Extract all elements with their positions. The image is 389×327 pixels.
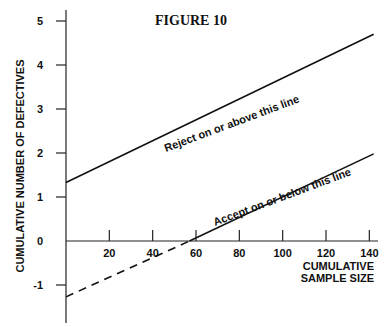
y-tick-label: 4 xyxy=(37,59,44,71)
x-tick-label: 60 xyxy=(190,247,202,259)
chart-figure: FIGURE 10 CUMULATIVE NUMBER OF DEFECTIVE… xyxy=(0,0,389,327)
y-tick-label: -1 xyxy=(33,279,43,291)
series-line xyxy=(66,34,374,182)
chart-title: FIGURE 10 xyxy=(155,13,227,28)
reject-annotation: Reject on or above this line xyxy=(162,93,300,154)
series-line xyxy=(66,241,190,297)
y-ticks: -1012345 xyxy=(33,15,66,291)
x-tick-label: 20 xyxy=(103,247,115,259)
x-axis-label-line2: SAMPLE SIZE xyxy=(301,272,374,284)
y-tick-label: 5 xyxy=(37,15,43,27)
y-tick-label: 1 xyxy=(37,191,43,203)
x-axis-label-line1: CUMULATIVE xyxy=(303,260,374,272)
y-axis-label: CUMULATIVE NUMBER OF DEFECTIVES xyxy=(14,59,26,272)
x-ticks: 20406080100120140 xyxy=(103,230,378,259)
accept-annotation: Accept on or below this line xyxy=(211,165,352,227)
y-tick-label: 0 xyxy=(37,235,43,247)
x-tick-label: 140 xyxy=(360,247,378,259)
x-tick-label: 100 xyxy=(273,247,291,259)
y-tick-label: 2 xyxy=(37,147,43,159)
x-tick-label: 40 xyxy=(147,247,159,259)
y-tick-label: 3 xyxy=(37,103,43,115)
x-tick-label: 80 xyxy=(233,247,245,259)
x-tick-label: 120 xyxy=(317,247,335,259)
chart-svg: FIGURE 10 CUMULATIVE NUMBER OF DEFECTIVE… xyxy=(0,0,389,327)
